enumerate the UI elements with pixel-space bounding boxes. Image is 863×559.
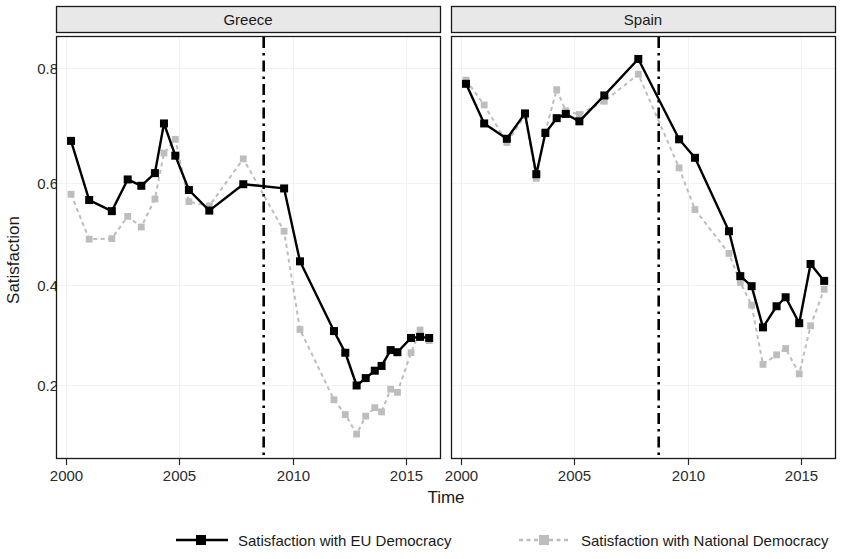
data-point-marker bbox=[371, 404, 378, 411]
x-tick-label: 2000 bbox=[50, 467, 83, 484]
data-point-marker bbox=[353, 431, 360, 438]
data-point-marker bbox=[108, 235, 115, 242]
data-point-marker bbox=[807, 322, 814, 329]
x-tick-marks-spain bbox=[462, 459, 802, 465]
data-point-marker bbox=[692, 206, 699, 213]
data-point-marker bbox=[760, 361, 767, 368]
data-point-marker bbox=[387, 386, 394, 393]
data-point-marker bbox=[161, 150, 168, 157]
x-tick-label: 2010 bbox=[277, 467, 310, 484]
y-tick-label: 0.2 bbox=[37, 377, 58, 394]
data-point-marker bbox=[541, 129, 549, 137]
data-point-marker bbox=[795, 319, 803, 327]
data-point-marker bbox=[342, 411, 349, 418]
data-point-marker bbox=[425, 334, 433, 342]
data-point-marker bbox=[807, 260, 815, 268]
legend-entry-national[interactable]: Satisfaction with National Democracy bbox=[519, 532, 829, 549]
x-tick-label: 2015 bbox=[390, 467, 423, 484]
data-point-marker bbox=[481, 102, 488, 109]
data-point-marker bbox=[417, 327, 424, 334]
y-tick-labels: 0.8 0.6 0.4 0.2 bbox=[37, 60, 58, 394]
x-tick-label: 2000 bbox=[445, 467, 478, 484]
data-point-marker bbox=[171, 152, 179, 160]
data-point-marker bbox=[675, 135, 683, 143]
panel-background-spain bbox=[452, 37, 836, 459]
x-tick-label: 2010 bbox=[672, 467, 705, 484]
data-point-marker bbox=[205, 207, 213, 215]
data-point-marker bbox=[407, 334, 415, 342]
data-point-marker bbox=[239, 180, 247, 188]
data-point-marker bbox=[124, 175, 132, 183]
y-axis-title: Satisfaction bbox=[4, 216, 23, 304]
x-axis-title: Time bbox=[427, 488, 464, 507]
data-point-marker bbox=[137, 182, 145, 190]
data-point-marker bbox=[378, 362, 386, 370]
strip-greece: Greece bbox=[57, 7, 441, 33]
data-point-marker bbox=[416, 333, 424, 341]
strip-label-spain: Spain bbox=[624, 11, 662, 28]
data-point-marker bbox=[138, 224, 145, 231]
data-point-marker bbox=[108, 207, 116, 215]
data-point-marker bbox=[736, 272, 744, 280]
x-tick-label: 2005 bbox=[163, 467, 196, 484]
data-point-marker bbox=[782, 345, 789, 352]
data-point-marker bbox=[462, 80, 470, 88]
data-point-marker bbox=[759, 323, 767, 331]
legend-label-eu: Satisfaction with EU Democracy bbox=[238, 532, 452, 549]
data-point-marker bbox=[676, 164, 683, 171]
data-point-marker bbox=[152, 196, 159, 203]
data-point-marker bbox=[331, 396, 338, 403]
satisfaction-facet-chart: Satisfaction 0.8 0.6 0.4 0.2 Greece Spai… bbox=[0, 0, 863, 559]
data-point-marker bbox=[330, 327, 338, 335]
x-tick-label: 2015 bbox=[785, 467, 818, 484]
data-point-marker bbox=[341, 349, 349, 357]
x-tick-labels-greece: 2000 2005 2010 2015 bbox=[50, 467, 423, 484]
data-point-marker bbox=[773, 302, 781, 310]
panel-background-greece bbox=[57, 37, 441, 459]
data-point-marker bbox=[725, 227, 733, 235]
legend-label-national: Satisfaction with National Democracy bbox=[581, 532, 829, 549]
data-point-marker bbox=[172, 136, 179, 143]
data-point-marker bbox=[297, 326, 304, 333]
legend-entry-eu[interactable]: Satisfaction with EU Democracy bbox=[176, 532, 452, 549]
strip-spain: Spain bbox=[452, 7, 836, 33]
data-point-marker bbox=[124, 213, 131, 220]
legend-marker-national-square-icon bbox=[539, 535, 549, 545]
x-tick-label: 2005 bbox=[558, 467, 591, 484]
data-point-marker bbox=[362, 374, 370, 382]
data-point-marker bbox=[281, 228, 288, 235]
data-point-marker bbox=[782, 293, 790, 301]
data-point-marker bbox=[821, 286, 828, 293]
data-point-marker bbox=[362, 413, 369, 420]
data-point-marker bbox=[575, 117, 583, 125]
data-point-marker bbox=[635, 71, 642, 78]
x-tick-marks-greece bbox=[67, 459, 407, 465]
data-point-marker bbox=[553, 86, 560, 93]
data-point-marker bbox=[68, 191, 75, 198]
data-point-marker bbox=[393, 348, 401, 356]
data-point-marker bbox=[151, 169, 159, 177]
data-point-marker bbox=[503, 135, 511, 143]
data-point-marker bbox=[820, 277, 828, 285]
data-point-marker bbox=[796, 370, 803, 377]
data-point-marker bbox=[394, 389, 401, 396]
data-point-marker bbox=[562, 110, 570, 118]
data-point-marker bbox=[576, 111, 583, 118]
data-point-marker bbox=[160, 119, 168, 127]
data-point-marker bbox=[521, 109, 529, 117]
y-tick-label: 0.6 bbox=[37, 175, 58, 192]
data-point-marker bbox=[634, 55, 642, 63]
data-point-marker bbox=[280, 184, 288, 192]
strip-label-greece: Greece bbox=[223, 11, 272, 28]
data-point-marker bbox=[773, 351, 780, 358]
data-point-marker bbox=[600, 91, 608, 99]
data-point-marker bbox=[532, 170, 540, 178]
data-point-marker bbox=[67, 137, 75, 145]
data-point-marker bbox=[748, 282, 756, 290]
data-point-marker bbox=[408, 349, 415, 356]
x-tick-labels-spain: 2000 2005 2010 2015 bbox=[445, 467, 818, 484]
data-point-marker bbox=[748, 302, 755, 309]
data-point-marker bbox=[553, 114, 561, 122]
legend: Satisfaction with EU Democracy Satisfact… bbox=[176, 532, 829, 549]
data-point-marker bbox=[691, 154, 699, 162]
